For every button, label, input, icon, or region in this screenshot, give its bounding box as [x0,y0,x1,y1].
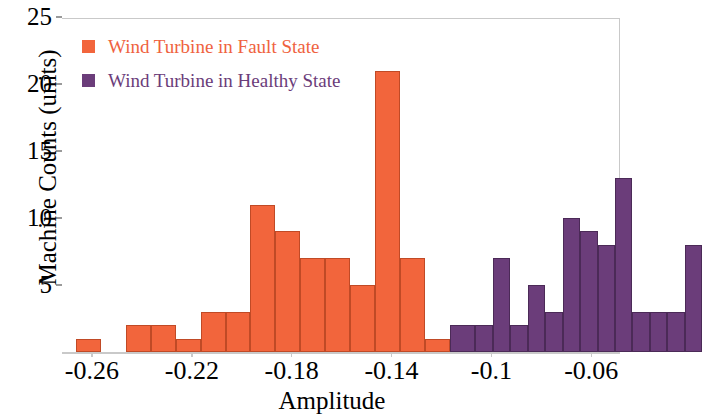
y-axis-title: Machine Counts (units) [35,3,60,333]
histogram-bar [632,312,649,352]
x-tick-label: -0.22 [165,358,219,384]
histogram-bar [667,312,684,352]
histogram-bar [685,245,702,352]
x-tick-label: -0.14 [364,358,418,384]
legend: Wind Turbine in Fault State Wind Turbine… [82,31,341,99]
x-tick-label: -0.18 [265,358,319,384]
x-tick-label: -0.26 [65,358,119,384]
x-axis-line [62,352,620,354]
histogram-bar [650,312,667,352]
legend-swatch-fault-icon [82,40,95,53]
legend-item-fault: Wind Turbine in Fault State [82,31,341,61]
legend-label-healthy: Wind Turbine in Healthy State [108,71,341,90]
legend-swatch-healthy-icon [82,74,95,87]
x-tick-label: -0.1 [471,358,512,384]
x-axis-title: Amplitude [0,388,664,413]
x-tick-label: -0.06 [564,358,618,384]
legend-label-fault: Wind Turbine in Fault State [108,37,319,56]
legend-item-healthy: Wind Turbine in Healthy State [82,65,341,95]
